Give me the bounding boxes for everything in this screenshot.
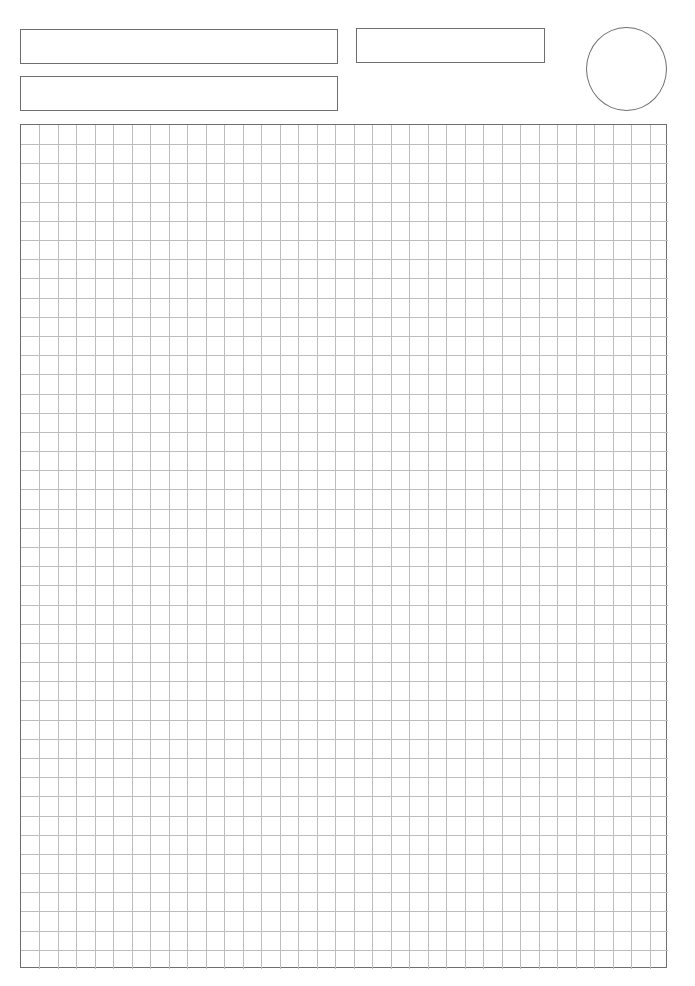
graph-grid [20, 124, 667, 968]
header-field-3[interactable] [356, 28, 545, 63]
circle-marker [586, 27, 667, 111]
grid-lines [21, 125, 668, 969]
header-field-1[interactable] [20, 29, 338, 64]
header-field-2[interactable] [20, 76, 338, 111]
